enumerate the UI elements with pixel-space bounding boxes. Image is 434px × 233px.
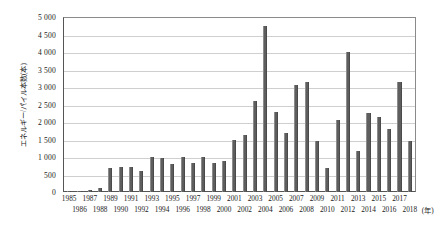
y-axis-tick-label: 0 xyxy=(52,188,56,197)
bar xyxy=(181,157,185,192)
bar xyxy=(108,168,112,192)
x-axis-tick-labels: (年) 198519871989199119931995199719992001… xyxy=(64,193,415,223)
x-axis-tick-label: 2009 xyxy=(310,194,325,203)
bar xyxy=(67,191,71,192)
bar xyxy=(284,133,288,193)
y-axis-tick-label: 4 000 xyxy=(38,48,56,57)
bar xyxy=(191,163,195,192)
y-axis-tick-label: 1 500 xyxy=(38,135,56,144)
y-axis-tick-label: 3 500 xyxy=(38,65,56,74)
x-axis-tick-label: 2001 xyxy=(227,194,242,203)
bar xyxy=(160,158,164,192)
y-axis-tick-label: 2 500 xyxy=(38,100,56,109)
x-axis-tick-label: 2014 xyxy=(361,205,376,214)
y-axis-tick-labels: 05001 0001 5002 0002 5003 0003 5004 0004… xyxy=(0,17,60,192)
bar xyxy=(346,52,350,192)
x-axis-tick-label: 1989 xyxy=(103,194,118,203)
y-axis-tick-label: 2 000 xyxy=(38,118,56,127)
x-axis-tick-label: 2013 xyxy=(351,194,366,203)
x-axis-tick-label: 1991 xyxy=(124,194,139,203)
bar xyxy=(150,157,154,192)
bar xyxy=(325,168,329,193)
x-axis-tick-label: 1985 xyxy=(62,194,77,203)
bar xyxy=(336,120,340,192)
x-axis-tick-label: 2003 xyxy=(248,194,263,203)
bar xyxy=(253,101,257,192)
bar xyxy=(201,157,205,192)
x-axis-tick-label: 1986 xyxy=(72,205,87,214)
bar xyxy=(243,135,247,192)
x-axis-tick-label: 2016 xyxy=(382,205,397,214)
bar xyxy=(119,167,123,192)
x-axis-tick-label: 2005 xyxy=(268,194,283,203)
bar xyxy=(98,188,102,192)
y-axis-tick-label: 5 000 xyxy=(38,13,56,22)
bar xyxy=(232,140,236,193)
bar xyxy=(129,167,133,192)
x-axis-tick-label: 1992 xyxy=(134,205,149,214)
x-axis-tick-label: 2006 xyxy=(279,205,294,214)
bar xyxy=(356,151,360,192)
x-axis-tick-label: 1999 xyxy=(206,194,221,203)
x-axis-tick-label: 2017 xyxy=(392,194,407,203)
bar xyxy=(170,164,174,192)
bar xyxy=(294,85,298,192)
bar xyxy=(88,190,92,192)
bar xyxy=(77,191,81,192)
x-axis-tick-label: 1988 xyxy=(93,205,108,214)
x-axis-tick-label: 1998 xyxy=(196,205,211,214)
bar xyxy=(139,171,143,192)
y-axis-tick-label: 1 000 xyxy=(38,153,56,162)
x-axis-tick-label: 2008 xyxy=(299,205,314,214)
bar xyxy=(305,82,309,192)
bar xyxy=(315,141,319,192)
x-axis-tick-label: 2000 xyxy=(217,205,232,214)
x-axis-tick-label: 2007 xyxy=(289,194,304,203)
x-axis-tick-label: 1995 xyxy=(165,194,180,203)
bar xyxy=(263,26,267,192)
y-axis-tick-label: 3 000 xyxy=(38,83,56,92)
bar-series xyxy=(64,17,415,192)
bar xyxy=(387,129,391,192)
x-axis-tick-label: 1994 xyxy=(155,205,170,214)
x-axis-unit-label: (年) xyxy=(422,205,434,215)
bar xyxy=(212,163,216,192)
bar xyxy=(274,112,278,193)
bar xyxy=(366,113,370,192)
x-axis-tick-label: 2011 xyxy=(330,194,344,203)
x-axis-tick-label: 1993 xyxy=(144,194,159,203)
bar xyxy=(408,141,412,192)
x-axis-tick-label: 2012 xyxy=(341,205,356,214)
y-axis-tick-label: 4 500 xyxy=(38,30,56,39)
bar xyxy=(397,82,401,192)
x-axis-tick-label: 2004 xyxy=(258,205,273,214)
x-axis-tick-label: 1997 xyxy=(186,194,201,203)
bar xyxy=(222,161,226,192)
x-axis-tick-label: 1990 xyxy=(113,205,128,214)
x-axis-tick-label: 2010 xyxy=(320,205,335,214)
x-axis-tick-label: 2018 xyxy=(403,205,418,214)
y-axis-tick-label: 500 xyxy=(44,170,56,179)
x-axis-tick-label: 1987 xyxy=(83,194,98,203)
x-axis-tick-label: 2015 xyxy=(372,194,387,203)
x-axis-tick-label: 1996 xyxy=(175,205,190,214)
x-axis-tick-label: 2002 xyxy=(237,205,252,214)
bar xyxy=(377,117,381,192)
